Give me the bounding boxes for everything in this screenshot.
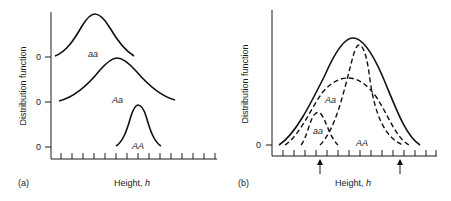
panel-a-zero-label-Aa: 0 <box>36 97 41 107</box>
panel-b-label-aa: aa <box>313 126 323 136</box>
panel-a-x-axis-label: Height, h <box>114 178 150 188</box>
panel-b-zero-label: 0 <box>256 140 261 150</box>
panel-a-zero-label-aa: 0 <box>36 52 41 62</box>
panel-a-tag: (a) <box>18 178 29 188</box>
panel-b-curve-Aa <box>285 78 409 145</box>
panel-a-curve-AA <box>116 105 161 146</box>
panel-b: Distribution function 0 aa <box>238 10 437 188</box>
panel-a-x-axis-label-text: Height, <box>114 178 145 188</box>
panel-b-tag: (b) <box>238 178 249 188</box>
panel-b-y-axis-label: Distribution function <box>240 44 250 123</box>
up-arrow-icon <box>397 159 403 174</box>
panel-b-x-axis-label: Height, h <box>335 178 371 188</box>
figure: Distribution function 0 0 0 <box>0 0 451 201</box>
panel-b-x-axis-label-var: h <box>366 178 371 188</box>
panel-b-x-axis-label-text: Height, <box>335 178 366 188</box>
panel-b-x-ticks <box>283 150 436 156</box>
panel-b-label-AA: AA <box>355 138 368 148</box>
panel-a-x-axis-label-var: h <box>145 178 150 188</box>
panel-a-y-axis-label: Distribution function <box>18 46 28 125</box>
panel-a-x-ticks <box>61 153 215 159</box>
panel-a-label-AA: AA <box>131 141 144 151</box>
up-arrow-icon <box>317 159 323 174</box>
panel-a-label-aa: aa <box>88 49 98 59</box>
panel-a: Distribution function 0 0 0 <box>18 12 217 188</box>
panel-b-label-Aa: Aa <box>324 95 336 105</box>
panel-b-curve-total <box>279 38 420 145</box>
panel-a-zero-label-AA: 0 <box>36 142 41 152</box>
panel-a-label-Aa: Aa <box>111 95 123 105</box>
